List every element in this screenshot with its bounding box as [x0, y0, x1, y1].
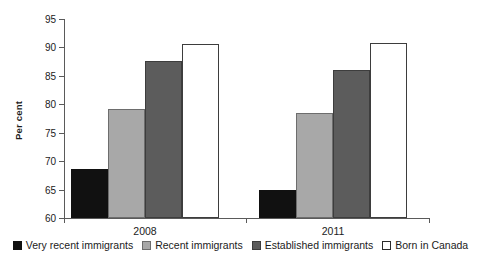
bar-2011-born-in-canada	[370, 43, 407, 218]
bar-2008-recent-immigrants	[108, 109, 145, 218]
legend-swatch-icon	[142, 241, 151, 250]
y-axis-tick	[59, 76, 64, 77]
legend-item[interactable]: Established immigrants	[252, 239, 374, 251]
legend-item-label: Recent immigrants	[155, 239, 243, 251]
x-axis-tick	[64, 218, 65, 223]
y-axis-label: Per cent	[6, 78, 32, 162]
y-axis-tick-label: 75	[45, 127, 56, 138]
x-axis-tick	[429, 218, 430, 223]
y-axis-tick-label: 60	[45, 213, 56, 224]
x-axis-category-label: 2011	[322, 225, 345, 237]
bar-chart: Per cent 959085807570656020082011 Very r…	[0, 0, 481, 267]
y-axis-tick	[59, 161, 64, 162]
y-axis-line	[64, 19, 65, 218]
chart-legend: Very recent immigrantsRecent immigrantsE…	[0, 239, 481, 251]
bar-2008-born-in-canada	[182, 44, 219, 218]
x-axis-line	[64, 218, 430, 219]
y-axis-tick-label: 85	[45, 70, 56, 81]
legend-item[interactable]: Very recent immigrants	[13, 239, 133, 251]
y-axis-tick-label: 65	[45, 184, 56, 195]
y-axis-tick	[59, 190, 64, 191]
bar-2008-very-recent-immigrants	[71, 169, 108, 218]
y-axis-tick-label: 80	[45, 99, 56, 110]
bar-2011-recent-immigrants	[296, 113, 333, 218]
y-axis-tick-label: 70	[45, 156, 56, 167]
y-axis-tick	[59, 133, 64, 134]
legend-item[interactable]: Born in Canada	[382, 239, 468, 251]
y-axis-tick	[59, 19, 64, 20]
y-axis-tick	[59, 47, 64, 48]
legend-swatch-icon	[382, 241, 391, 250]
legend-item-label: Born in Canada	[395, 239, 468, 251]
legend-swatch-icon	[13, 241, 22, 250]
bar-2011-established-immigrants	[333, 70, 370, 218]
bar-2008-established-immigrants	[145, 61, 182, 218]
x-axis-tick	[246, 218, 247, 223]
plot-area: 959085807570656020082011	[64, 19, 430, 218]
y-axis-tick	[59, 104, 64, 105]
y-axis-label-text: Per cent	[14, 100, 25, 139]
bar-2011-very-recent-immigrants	[259, 190, 296, 218]
x-axis-category-label: 2008	[133, 225, 156, 237]
y-axis-tick-label: 90	[45, 42, 56, 53]
legend-item[interactable]: Recent immigrants	[142, 239, 243, 251]
y-axis-tick-label: 95	[45, 14, 56, 25]
legend-item-label: Very recent immigrants	[26, 239, 133, 251]
legend-item-label: Established immigrants	[265, 239, 374, 251]
legend-swatch-icon	[252, 241, 261, 250]
